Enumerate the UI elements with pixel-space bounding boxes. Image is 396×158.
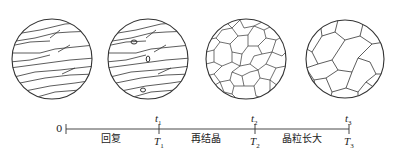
tick-2-temp-label: T2 [250, 136, 260, 150]
phase-label-recrystallization: 再结晶 [191, 134, 221, 144]
deformed-grains-circle [10, 19, 95, 99]
grain-growth-circle [305, 20, 386, 100]
phase-label-grain-growth: 晶粒长大 [282, 134, 322, 144]
tick-3-time-label: t3 [345, 113, 352, 127]
tick-1-time-label: t1 [155, 113, 162, 127]
tick-2-time-label: t2 [251, 113, 258, 127]
recovery-grains-circle [106, 19, 191, 99]
tick-3-temp-label: T3 [344, 136, 354, 150]
recrystallized-grains-circle [206, 19, 288, 100]
tick-1-temp-label: T1 [154, 136, 164, 150]
phase-label-recovery: 回复 [101, 134, 121, 144]
origin-label: 0 [56, 124, 62, 134]
